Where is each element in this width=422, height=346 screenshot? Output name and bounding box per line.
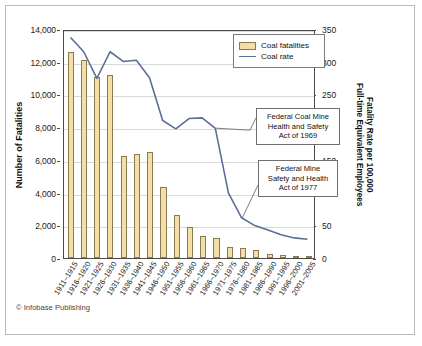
y-axis-tick-label: 2,000: [35, 221, 56, 231]
y-axis-tick-mark: [57, 194, 61, 195]
line-swatch-icon: [239, 56, 256, 57]
y-axis-tick-label: 4,000: [35, 189, 56, 199]
y-axis-tick-mark: [57, 95, 61, 96]
y-axis-tick-label: 10,000: [31, 90, 56, 100]
legend-label-coal-rate: Coal rate: [261, 52, 293, 61]
annotation-1-line-3: Act of 1969: [261, 131, 335, 141]
y2-axis-tick-label: 250: [322, 90, 336, 100]
y-axis-tick-label: 14,000: [31, 25, 56, 35]
y-axis-tick-mark: [57, 128, 61, 129]
annotation-1-line-1: Federal Coal Mine: [261, 112, 335, 122]
annotation-federal-coal-mine-act: Federal Coal Mine Health and Safety Act …: [256, 108, 340, 145]
y2-axis-tick-label: 50: [322, 221, 331, 231]
y-axis-tick-mark: [57, 63, 61, 64]
y-axis-tick-mark: [57, 226, 61, 227]
chart-figure: Number of Fatalities Fatality Rate per 1…: [0, 0, 422, 346]
y-axis-tick-label: 12,000: [31, 58, 56, 68]
legend-label-coal-fatalities: Coal fatalities: [261, 41, 309, 50]
y-axis-tick-mark: [57, 259, 61, 260]
chart-legend: Coal fatalities Coal rate: [233, 34, 325, 68]
legend-item-coal-fatalities: Coal fatalities: [239, 41, 319, 50]
y2-axis-title-line2: Full-time Equivalent Employees: [355, 83, 365, 206]
y-axis-tick-label: 8,000: [35, 123, 56, 133]
annotation-2-line-1: Federal Mine: [263, 164, 333, 174]
y2-axis-tick-label: 0: [322, 254, 327, 264]
y-axis-tick-label: 6,000: [35, 156, 56, 166]
y2-axis-title-line1: Fatality Rate per 100,000: [365, 83, 375, 206]
legend-item-coal-rate: Coal rate: [239, 52, 319, 61]
copyright-footer: © Infobase Publishing: [16, 303, 90, 312]
y-axis-tick-label: 0: [51, 254, 56, 264]
annotation-1-line-2: Health and Safety: [261, 122, 335, 132]
annotation-2-line-3: Act of 1977: [263, 183, 333, 193]
annotation-federal-mine-act: Federal Mine Safety and Health Act of 19…: [258, 160, 338, 197]
x-axis-labels: 1911–19151916–19201921–19251926–19301931…: [63, 260, 315, 320]
annotation-2-line-2: Safety and Health: [263, 174, 333, 184]
y-axis-tick-mark: [57, 30, 61, 31]
y-axis-tick-mark: [57, 161, 61, 162]
bar-swatch-icon: [239, 42, 256, 50]
y-axis-labels: 02,0004,0006,0008,00010,00012,00014,000: [0, 30, 60, 259]
